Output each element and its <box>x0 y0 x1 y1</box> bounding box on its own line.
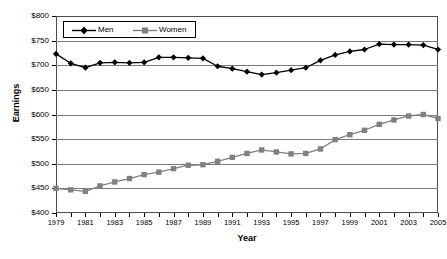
legend-marker-men-icon <box>72 26 96 35</box>
data-point-women <box>435 116 440 121</box>
x-axis-title: Year <box>56 233 438 243</box>
data-point-women <box>156 169 161 174</box>
plot-area <box>0 0 447 259</box>
data-point-women <box>391 117 396 122</box>
data-point-women <box>377 122 382 127</box>
data-point-women <box>141 172 146 177</box>
data-point-women <box>200 162 205 167</box>
data-point-women <box>230 155 235 160</box>
legend-marker-women-icon <box>133 26 157 35</box>
data-point-women <box>406 113 411 118</box>
data-point-women <box>68 187 73 192</box>
data-point-women <box>112 179 117 184</box>
data-point-women <box>274 149 279 154</box>
data-point-women <box>215 159 220 164</box>
data-point-women <box>421 112 426 117</box>
earnings-line-chart: Earnings $400$450$500$550$600$650$700$75… <box>0 0 447 259</box>
data-point-women <box>53 186 58 191</box>
data-point-women <box>332 137 337 142</box>
chart-legend: Men Women <box>63 21 196 38</box>
data-point-women <box>244 151 249 156</box>
data-point-women <box>171 166 176 171</box>
data-point-women <box>83 189 88 194</box>
data-point-women <box>97 183 102 188</box>
data-point-women <box>127 176 132 181</box>
data-point-women <box>288 151 293 156</box>
data-point-women <box>303 151 308 156</box>
data-point-women <box>347 132 352 137</box>
data-point-women <box>259 147 264 152</box>
data-point-women <box>318 146 323 151</box>
legend-label-women: Women <box>159 25 186 34</box>
legend-label-men: Men <box>98 25 114 34</box>
data-point-women <box>362 128 367 133</box>
data-point-women <box>186 163 191 168</box>
